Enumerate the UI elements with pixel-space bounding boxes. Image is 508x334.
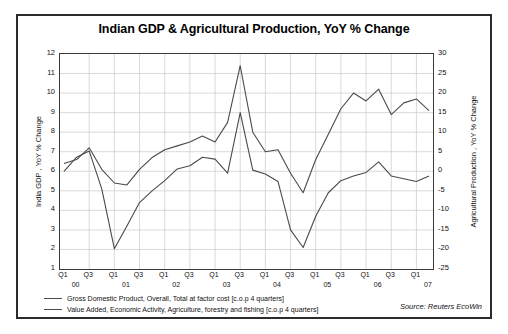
plot-area — [59, 53, 434, 270]
chart-frame: Indian GDP & Agricultural Production, Yo… — [16, 14, 492, 319]
y-tick-left: 4 — [34, 204, 55, 213]
y-tick-right: -20 — [438, 243, 449, 252]
y-tick-left: 8 — [34, 126, 55, 135]
chart-title: Indian GDP & Agricultural Production, Yo… — [18, 22, 490, 36]
y-tick-right: 0 — [438, 165, 442, 174]
legend-label: Gross Domestic Product, Overall, Total a… — [67, 295, 284, 302]
x-tick-quarter: Q1 — [304, 271, 326, 278]
x-tick-quarter: Q3 — [77, 271, 99, 278]
y-tick-right: -15 — [438, 224, 449, 233]
y-tick-right: -25 — [438, 263, 449, 272]
x-tick-quarter: Q1 — [354, 271, 376, 278]
y-tick-right: 30 — [438, 48, 446, 57]
x-tick-quarter: Q1 — [203, 271, 225, 278]
x-tick-quarter: Q3 — [228, 271, 250, 278]
x-tick-quarter: Q3 — [379, 271, 401, 278]
x-tick-quarter: Q3 — [128, 271, 150, 278]
legend-swatch — [44, 298, 62, 299]
legend-item[interactable]: Gross Domestic Product, Overall, Total a… — [44, 295, 284, 302]
y-tick-left: 10 — [34, 87, 55, 96]
y-tick-right: 20 — [438, 87, 446, 96]
y-tick-right: 10 — [438, 126, 446, 135]
y-tick-right: 15 — [438, 107, 446, 116]
x-tick-quarter: Q3 — [279, 271, 301, 278]
legend-item[interactable]: Value Added, Economic Activity, Agricult… — [44, 306, 318, 313]
y-tick-right: 5 — [438, 146, 442, 155]
y-tick-left: 11 — [34, 68, 55, 77]
x-tick-year: 04 — [266, 281, 288, 288]
x-tick-quarter: Q1 — [404, 271, 426, 278]
y-tick-right: -10 — [438, 204, 449, 213]
x-tick-quarter: Q1 — [153, 271, 175, 278]
y-tick-right: -5 — [438, 185, 445, 194]
x-tick-year: 03 — [216, 281, 238, 288]
x-tick-year: 00 — [65, 281, 87, 288]
x-tick-quarter: Q1 — [102, 271, 124, 278]
y-tick-right: 25 — [438, 68, 446, 77]
y-tick-left: 5 — [34, 185, 55, 194]
x-tick-year: 02 — [165, 281, 187, 288]
x-tick-quarter: Q1 — [52, 271, 74, 278]
y-axis-left-title: India GDP , YoY % Change — [32, 53, 46, 270]
y-tick-left: 6 — [34, 165, 55, 174]
y-axis-right-title-text: Agricultural Production , YoY % Change — [469, 95, 478, 227]
legend-label: Value Added, Economic Activity, Agricult… — [67, 306, 318, 313]
series-line-0 — [64, 66, 429, 193]
series-line-1 — [64, 113, 429, 249]
y-tick-left: 3 — [34, 224, 55, 233]
x-tick-year: 07 — [417, 281, 439, 288]
x-tick-year: 06 — [367, 281, 389, 288]
x-tick-quarter: Q3 — [329, 271, 351, 278]
x-tick-year: 01 — [115, 281, 137, 288]
y-tick-left: 7 — [34, 146, 55, 155]
x-tick-quarter: Q3 — [178, 271, 200, 278]
legend-swatch — [44, 309, 62, 310]
y-tick-left: 12 — [34, 48, 55, 57]
y-tick-left: 9 — [34, 107, 55, 116]
y-axis-right-title: Agricultural Production , YoY % Change — [466, 53, 480, 270]
y-tick-left: 2 — [34, 243, 55, 252]
chart-svg — [60, 54, 433, 269]
x-tick-quarter: Q1 — [253, 271, 275, 278]
x-tick-year: 05 — [316, 281, 338, 288]
source-note: Source: Reuters EcoWin — [400, 302, 482, 311]
